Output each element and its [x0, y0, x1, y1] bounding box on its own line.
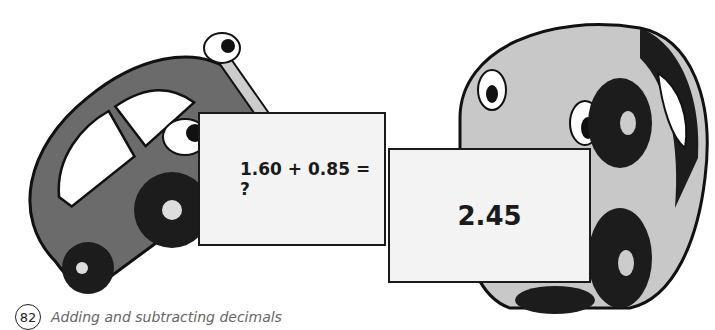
footer-title: Adding and subtracting decimals [51, 309, 282, 325]
answer-text: 2.45 [457, 201, 521, 231]
page-number-badge: 82 [15, 304, 41, 330]
page-footer: 82 Adding and subtracting decimals [15, 304, 282, 330]
question-text: 1.60 + 0.85 = ? [240, 159, 384, 199]
answer-card: 2.45 [388, 148, 591, 283]
question-card: 1.60 + 0.85 = ? [198, 112, 386, 246]
